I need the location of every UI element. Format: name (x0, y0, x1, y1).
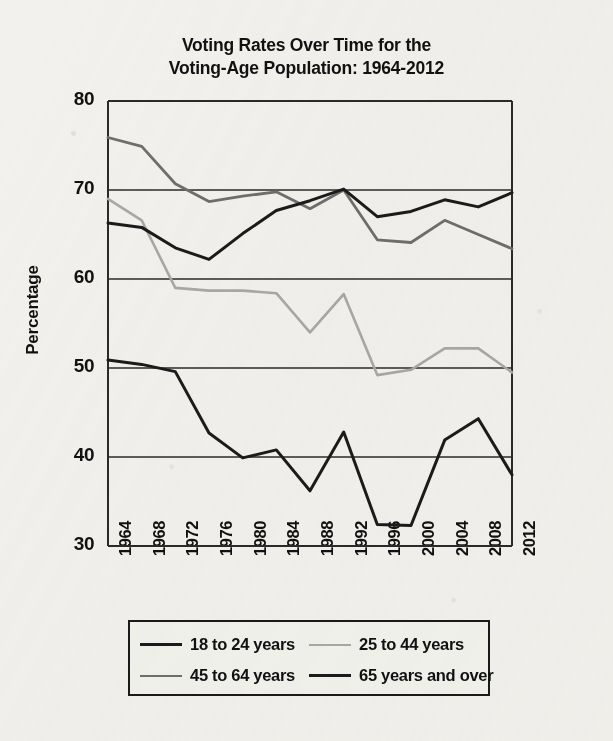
legend-row-1: 18 to 24 years 25 to 44 years (140, 629, 478, 660)
series-line-45-to-64-years (108, 138, 512, 249)
legend-label-45-to-64-years: 45 to 64 years (190, 666, 295, 685)
chart-legend: 18 to 24 years 25 to 44 years 45 to 64 y… (128, 620, 490, 696)
legend-swatch-18-to-24-years (140, 643, 182, 646)
legend-swatch-65-years-and-over (309, 674, 351, 677)
series-line-18-to-24-years (108, 360, 512, 526)
legend-item-25-to-44-years: 25 to 44 years (309, 635, 478, 654)
legend-item-45-to-64-years: 45 to 64 years (140, 666, 309, 685)
legend-item-65-years-and-over: 65 years and over (309, 666, 478, 685)
legend-label-25-to-44-years: 25 to 44 years (359, 635, 464, 654)
legend-swatch-45-to-64-years (140, 675, 182, 677)
chart-figure: Voting Rates Over Time for the Voting-Ag… (0, 0, 613, 741)
legend-swatch-25-to-44-years (309, 644, 351, 646)
series-line-25-to-44-years (108, 199, 512, 375)
legend-label-18-to-24-years: 18 to 24 years (190, 635, 295, 654)
legend-item-18-to-24-years: 18 to 24 years (140, 635, 309, 654)
legend-row-2: 45 to 64 years 65 years and over (140, 660, 478, 691)
legend-label-65-years-and-over: 65 years and over (359, 666, 493, 685)
